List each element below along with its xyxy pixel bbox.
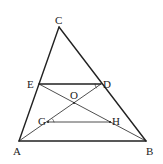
label-o: O [70, 89, 78, 101]
geometry-diagram: C E D O G H A B [0, 0, 163, 164]
point-o [73, 102, 75, 104]
label-e: E [27, 78, 34, 90]
segment-ad [19, 84, 101, 141]
label-c: C [55, 14, 62, 26]
angle-mark-g [53, 119, 55, 122]
label-d: D [103, 78, 111, 90]
label-b: B [146, 145, 153, 157]
point-g [47, 121, 49, 123]
label-g: G [38, 115, 46, 127]
label-a: A [13, 145, 21, 157]
segment-eb [39, 84, 146, 141]
point-h [109, 121, 111, 123]
label-h: H [112, 115, 120, 127]
